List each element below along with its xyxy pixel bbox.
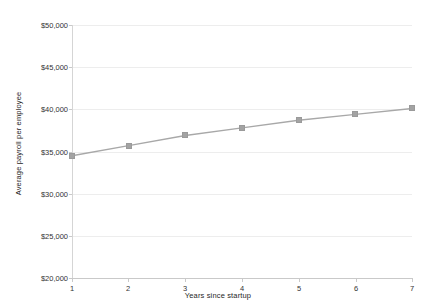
x-axis-title: Years since startup: [0, 291, 436, 300]
data-point-marker: [239, 125, 245, 131]
data-point-marker: [126, 143, 132, 149]
chart-container: $50,000 $45,000 $40,000 $35,000 $30,000 …: [0, 0, 436, 308]
data-point-marker: [69, 153, 75, 159]
data-point-marker: [409, 105, 415, 111]
data-point-marker: [182, 132, 188, 138]
data-point-marker: [352, 111, 358, 117]
y-axis-title: Average payroll per employee: [14, 64, 23, 224]
data-point-marker: [296, 117, 302, 123]
series-line: [0, 0, 436, 308]
